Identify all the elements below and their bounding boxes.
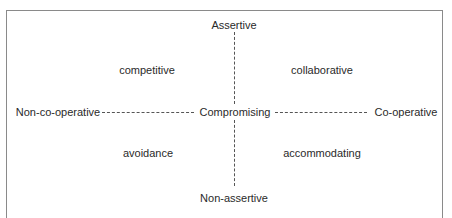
quadrant-competitive: competitive xyxy=(119,64,175,77)
axis-label-co-operative: Co-operative xyxy=(375,106,438,119)
quadrant-accommodating: accommodating xyxy=(283,147,361,160)
vertical-axis-lower xyxy=(234,120,235,186)
horizontal-axis-right xyxy=(275,112,367,113)
axis-label-non-assertive: Non-assertive xyxy=(200,192,268,205)
horizontal-axis-left xyxy=(102,112,194,113)
axis-label-assertive: Assertive xyxy=(211,19,256,32)
quadrant-avoidance: avoidance xyxy=(123,147,173,160)
center-label-compromising: Compromising xyxy=(200,106,271,119)
axis-label-non-co-operative: Non-co-operative xyxy=(16,106,100,119)
vertical-axis-upper xyxy=(234,32,235,104)
quadrant-collaborative: collaborative xyxy=(291,64,353,77)
